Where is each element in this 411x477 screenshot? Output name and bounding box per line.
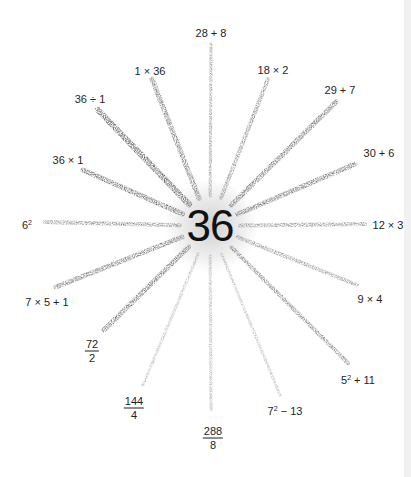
- expression-text: 29 + 7: [325, 84, 356, 96]
- ray-12-times-3: [240, 224, 365, 226]
- label-12-times-3: 12 × 3: [373, 219, 404, 231]
- label-7x5plus1: 7 × 5 + 1: [25, 296, 68, 308]
- ray-6-squared: [45, 222, 180, 225]
- label-5sq-plus-11: 52 + 11: [341, 372, 375, 386]
- expression-text: 30 + 6: [364, 147, 395, 159]
- label-72-over-2: 722: [85, 339, 99, 364]
- ray-1-times-36: [152, 79, 199, 198]
- ray-29-plus-7: [231, 102, 336, 205]
- fraction-denominator: 8: [210, 439, 216, 451]
- ray-288-over-8: [210, 256, 211, 410]
- ray-144-over-4: [143, 254, 198, 385]
- center-number: 36: [187, 204, 234, 248]
- ray-5sq-plus-11: [231, 247, 348, 363]
- label-6-squared: 62: [22, 217, 32, 231]
- label-1-times-36: 1 × 36: [135, 65, 166, 77]
- ray-9-times-4: [238, 237, 357, 285]
- label-144-over-4: 1444: [124, 396, 144, 421]
- ray-30-plus-6: [238, 164, 355, 214]
- label-9-times-4: 9 × 4: [358, 293, 383, 305]
- expression-text: 18 × 2: [258, 64, 289, 76]
- expression-text: 7 × 5 + 1: [25, 296, 68, 308]
- expression-rest: + 11: [351, 374, 375, 386]
- expression-rest: − 13: [278, 405, 303, 417]
- ray-7x5plus1: [56, 237, 182, 287]
- expression-text: 36 ÷ 1: [75, 93, 106, 105]
- fraction-numerator: 288: [203, 426, 223, 439]
- label-30-plus-6: 30 + 6: [364, 147, 395, 159]
- expression-text: 28 + 8: [196, 27, 227, 39]
- ray-7sq-minus-13: [221, 254, 280, 395]
- label-7sq-minus-13: 72 − 13: [268, 403, 303, 417]
- fraction-denominator: 4: [131, 409, 137, 421]
- label-36-times-1: 36 × 1: [53, 154, 84, 166]
- exponent: 2: [28, 219, 32, 226]
- label-18-times-2: 18 × 2: [258, 64, 289, 76]
- expression-text: 1 × 36: [135, 65, 166, 77]
- label-288-over-8: 2888: [203, 426, 223, 451]
- fraction-denominator: 2: [89, 352, 95, 364]
- expression-text: 9 × 4: [358, 293, 383, 305]
- fraction-numerator: 72: [85, 339, 99, 352]
- fraction-numerator: 144: [124, 396, 144, 409]
- ray-18-times-2: [221, 79, 268, 198]
- label-36-div-1: 36 ÷ 1: [75, 93, 106, 105]
- expression-text: 12 × 3: [373, 219, 404, 231]
- label-28-plus-8: 28 + 8: [196, 27, 227, 39]
- ray-72-over-2: [104, 247, 189, 330]
- expression-text: 36 × 1: [53, 154, 84, 166]
- ray-28-plus-8: [210, 44, 211, 196]
- label-29-plus-7: 29 + 7: [325, 84, 356, 96]
- ray-36-div-1: [98, 110, 189, 204]
